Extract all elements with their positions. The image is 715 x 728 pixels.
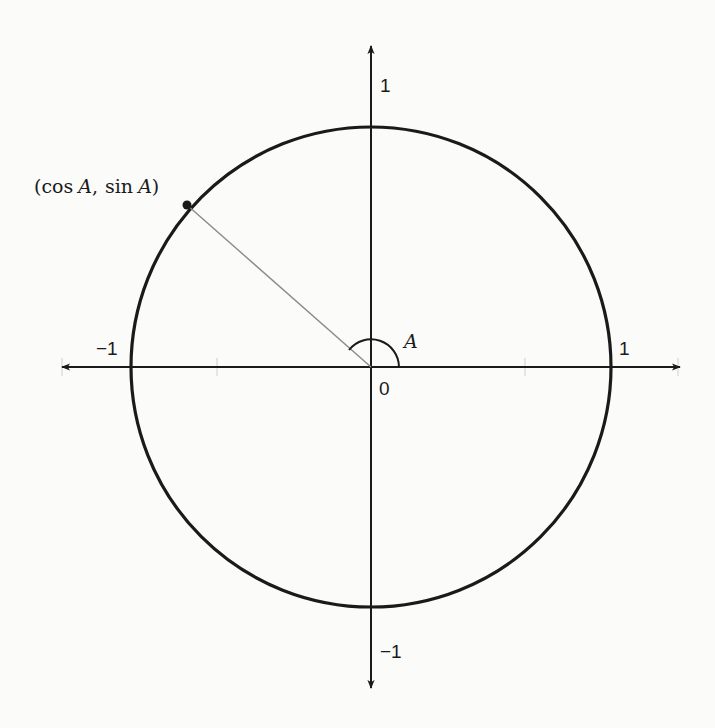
angle-arc [349,339,399,367]
label-point: (cosA,sinA) [34,175,159,197]
label-y-positive: 1 [380,75,391,96]
label-x-negative: −1 [96,338,118,359]
label-point-var1: A [76,175,92,197]
label-origin: 0 [379,378,390,399]
label-angle: A [402,330,418,352]
label-point-sep: , [92,175,98,197]
label-point-close: ) [152,175,159,197]
label-y-negative: −1 [380,641,402,662]
point-marker [183,201,192,210]
label-x-positive: 1 [619,338,630,359]
label-point-cos: cos [41,175,73,197]
radius-line [187,205,371,367]
label-point-sin: sin [105,175,133,197]
label-point-open: ( [34,175,41,197]
label-point-var2: A [136,175,152,197]
unit-circle-diagram: 0 1 −1 1 −1 A (cosA,sinA) [0,0,715,728]
